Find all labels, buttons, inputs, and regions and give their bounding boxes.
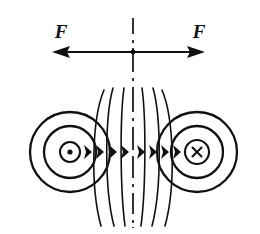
- field-arrow-6: [149, 145, 157, 159]
- field-arrow-4: [121, 145, 129, 159]
- cross-icon: [193, 148, 202, 157]
- field-arrow-7: [161, 145, 169, 159]
- field-line-4: [141, 88, 145, 226]
- field-arrow-5: [137, 145, 145, 159]
- field-arrow-8: [173, 145, 181, 159]
- diagram-canvas: F F: [0, 0, 260, 234]
- force-label-right: F: [192, 21, 206, 42]
- field-arrow-2: [96, 145, 104, 159]
- force-label-left: F: [54, 21, 68, 42]
- force-arrow-axis: [52, 46, 205, 58]
- field-arrow-1: [84, 145, 92, 159]
- dot-icon: [67, 149, 72, 154]
- axis-intersection-dot: [131, 50, 136, 55]
- physics-field-diagram: F F: [0, 0, 260, 234]
